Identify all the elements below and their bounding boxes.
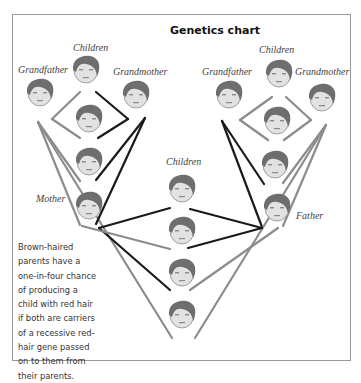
chart-title: Genetics chart bbox=[150, 24, 280, 37]
label-right-children: Children bbox=[259, 44, 294, 55]
face-center-child-3 bbox=[169, 259, 195, 286]
face-left-grandmother bbox=[123, 81, 149, 108]
face-center-child-2 bbox=[169, 217, 195, 244]
explanation-caption: Brown-haired parents have a one-in-four … bbox=[18, 240, 100, 383]
face-center-child-1 bbox=[169, 175, 195, 202]
face-left-child-1 bbox=[73, 56, 99, 83]
face-center-child-4 bbox=[169, 301, 195, 328]
face-right-grandmother bbox=[309, 84, 335, 111]
label-left-grandmother: Grandmother bbox=[113, 66, 167, 77]
face-right-child-3 bbox=[262, 151, 288, 178]
face-left-child-3 bbox=[76, 148, 102, 175]
face-left-child-2 bbox=[76, 105, 102, 132]
face-right-grandfather bbox=[216, 81, 242, 108]
face-right-child-2 bbox=[264, 107, 290, 134]
label-father: Father bbox=[296, 210, 323, 221]
face-left-grandfather bbox=[27, 79, 53, 106]
label-right-grandfather: Grandfather bbox=[202, 66, 252, 77]
face-mother bbox=[76, 192, 102, 219]
face-right-child-1 bbox=[266, 60, 292, 87]
label-left-children: Children bbox=[73, 42, 108, 53]
label-center-children: Children bbox=[166, 156, 201, 167]
label-mother: Mother bbox=[36, 193, 65, 204]
label-right-grandmother: Grandmother bbox=[295, 66, 349, 77]
label-left-grandfather: Grandfather bbox=[18, 64, 68, 75]
